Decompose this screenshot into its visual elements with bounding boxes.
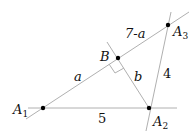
point-a3 xyxy=(166,23,170,27)
label-a: a xyxy=(74,69,82,84)
label-5: 5 xyxy=(98,111,106,126)
label-a3: A3 xyxy=(172,24,188,41)
label-4: 4 xyxy=(163,66,171,81)
label-a2: A2 xyxy=(152,114,168,131)
point-a1 xyxy=(41,106,45,110)
geometry-diagram: A1 A2 A3 B a 7-a b 5 4 xyxy=(0,0,194,137)
point-a2 xyxy=(147,106,151,110)
point-b xyxy=(116,56,120,60)
label-7-minus-a: 7-a xyxy=(125,26,145,41)
label-a1: A1 xyxy=(12,102,28,119)
label-b: B xyxy=(99,49,110,64)
label-b-segment: b xyxy=(134,69,142,84)
